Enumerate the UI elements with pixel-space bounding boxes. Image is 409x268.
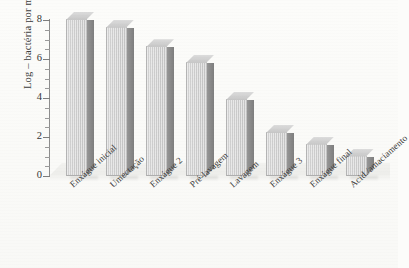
bar <box>186 55 214 176</box>
bar-top-face <box>226 92 254 100</box>
bar-front-face <box>66 19 87 176</box>
bar-side-face <box>86 20 94 176</box>
bar-front-face <box>146 46 167 176</box>
bar-front-face <box>226 99 247 176</box>
bar <box>146 39 174 176</box>
bar-top-face <box>106 20 134 28</box>
bar-top-face <box>186 55 214 63</box>
bar-front-face <box>186 62 207 176</box>
bar-side-face <box>166 47 174 176</box>
bar-side-face <box>126 28 134 176</box>
bar <box>66 12 94 176</box>
bar-top-face <box>306 137 334 145</box>
bar-top-face <box>66 12 94 20</box>
bar-top-face <box>146 39 174 47</box>
bar-top-face <box>266 125 294 133</box>
